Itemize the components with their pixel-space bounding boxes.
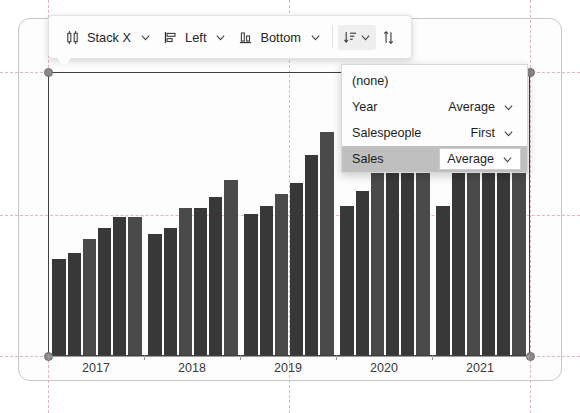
aggregate-select[interactable]: First — [443, 122, 521, 144]
dropdown-row-label: Year — [352, 100, 377, 114]
chevron-down-icon[interactable] — [503, 102, 514, 113]
screenshot-root: 20172018201920202021 Stack X — [0, 0, 580, 413]
x-axis-tick — [144, 355, 145, 360]
x-axis-label-2017: 2017 — [82, 361, 110, 375]
toolbar-swap-button[interactable] — [376, 25, 401, 50]
x-axis-tick — [432, 355, 433, 360]
aggregate-select-value: Average — [447, 152, 494, 166]
x-axis-line — [48, 356, 530, 357]
dropdown-row-label: Sales — [352, 152, 384, 166]
toolbar-item-align-left-label: Left — [185, 30, 206, 45]
align-left-icon — [163, 30, 178, 45]
toolbar-item-align-left[interactable]: Left — [157, 25, 232, 50]
dropdown-row-none[interactable]: (none) — [342, 68, 527, 94]
field-aggregate-dropdown[interactable]: (none)YearAverageSalespeopleFirstSalesAv… — [341, 64, 528, 173]
align-bottom-icon — [238, 30, 253, 45]
x-axis-label-2018: 2018 — [178, 361, 206, 375]
chevron-down-icon[interactable] — [310, 32, 321, 43]
x-axis-label-2020: 2020 — [370, 361, 398, 375]
stack-x-icon — [65, 30, 80, 45]
aggregate-select[interactable]: Average — [439, 148, 521, 170]
dropdown-row-label: Salespeople — [352, 126, 421, 140]
toolbar-separator — [332, 26, 333, 48]
aggregate-select[interactable]: Average — [441, 96, 521, 118]
x-axis-tick — [528, 355, 529, 360]
toolbar-item-stack-x-label: Stack X — [87, 30, 131, 45]
aggregate-select-value: Average — [448, 100, 495, 114]
aggregate-select-value: First — [471, 126, 495, 140]
x-axis-tick — [336, 355, 337, 360]
toolbar-item-align-bottom-label: Bottom — [260, 30, 301, 45]
chevron-down-icon[interactable] — [502, 154, 513, 165]
toolbar-item-stack-x[interactable]: Stack X — [59, 25, 157, 50]
toolbar-item-align-bottom[interactable]: Bottom — [232, 25, 327, 50]
chevron-down-icon[interactable] — [360, 32, 371, 43]
dropdown-row-salespeople[interactable]: SalespeopleFirst — [342, 120, 527, 146]
dropdown-row-year[interactable]: YearAverage — [342, 94, 527, 120]
chart-floating-toolbar: Stack X Left — [48, 15, 412, 59]
resize-handle-top-left[interactable] — [44, 68, 53, 77]
x-axis-label-2019: 2019 — [274, 361, 302, 375]
dropdown-row-label: (none) — [352, 74, 388, 88]
swap-vertical-icon — [381, 30, 396, 45]
sort-descending-icon — [343, 30, 358, 45]
chevron-down-icon[interactable] — [503, 128, 514, 139]
chevron-down-icon[interactable] — [215, 32, 226, 43]
x-axis-tick — [48, 355, 49, 360]
chevron-down-icon[interactable] — [140, 32, 151, 43]
x-axis-label-2021: 2021 — [466, 361, 494, 375]
x-axis-labels: 20172018201920202021 — [48, 359, 530, 381]
dropdown-row-sales[interactable]: SalesAverage — [342, 146, 527, 172]
toolbar-sort-button[interactable] — [338, 25, 376, 50]
x-axis-tick — [240, 355, 241, 360]
